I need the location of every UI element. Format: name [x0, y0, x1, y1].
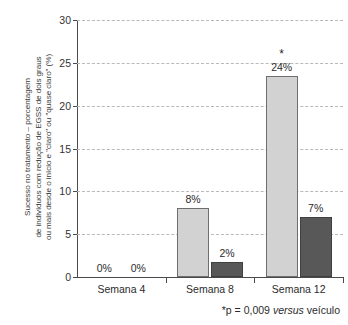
gridline: [77, 149, 343, 150]
bar-value-label: 8%: [185, 193, 200, 205]
gridline: [77, 63, 343, 64]
x-axis-end-tick: [343, 277, 344, 283]
bar-chart-figure: Sucesso no tratamento – porcentagem de i…: [0, 0, 348, 325]
bar-value-label: 0%: [131, 262, 146, 274]
y-axis-tick-mark: [73, 234, 77, 235]
x-axis-line: [77, 277, 343, 278]
bar-dark-2: [300, 217, 332, 277]
bar-value-label: 24%: [271, 61, 292, 73]
x-axis-category-label: Semana 4: [97, 283, 145, 295]
y-axis-title-line-1: Sucesso no tratamento – porcentagem: [23, 78, 33, 216]
y-axis-tick-mark: [73, 149, 77, 150]
x-axis-group-separator: [254, 277, 255, 283]
plot-area: 051015202530 0%0%8%2%24%*7%: [77, 20, 343, 277]
y-axis-title: Sucesso no tratamento – porcentagem de i…: [17, 14, 61, 280]
y-axis-tick-label: 30: [59, 14, 71, 26]
y-axis-tick-mark: [73, 277, 77, 278]
bar-light-1: [177, 208, 209, 277]
y-axis-tick-label: 25: [59, 57, 71, 69]
y-axis-title-line-3: ou mais desde o início e "claro" ou "qua…: [44, 54, 54, 240]
bar-dark-1: [211, 262, 243, 277]
x-axis-category-label: Semana 12: [272, 283, 326, 295]
footnote: *p = 0,009 versus veículo: [222, 304, 340, 316]
y-axis-tick-label: 5: [65, 228, 71, 240]
bar-value-label: 2%: [219, 247, 234, 259]
footnote-suffix: veículo: [304, 304, 340, 316]
gridline: [77, 20, 343, 21]
y-axis-tick-mark: [73, 191, 77, 192]
bar-value-label: 0%: [97, 262, 112, 274]
footnote-prefix: *p = 0,009: [222, 304, 273, 316]
y-axis-tick-mark: [73, 20, 77, 21]
x-axis-category-label: Semana 8: [186, 283, 234, 295]
footnote-emphasis: versus: [273, 304, 304, 316]
y-axis-tick-mark: [73, 106, 77, 107]
gridline: [77, 191, 343, 192]
y-axis-tick-label: 15: [59, 143, 71, 155]
y-axis-tick-label: 10: [59, 185, 71, 197]
x-axis-group-separator: [166, 277, 167, 283]
y-axis-tick-label: 0: [65, 271, 71, 283]
bar-light-2: [266, 76, 298, 277]
y-axis-title-line-2: de indivíduos com redução de EGSS de doi…: [34, 56, 44, 237]
y-axis-tick-label: 20: [59, 100, 71, 112]
y-axis-tick-mark: [73, 63, 77, 64]
bar-value-label: 7%: [308, 202, 323, 214]
significance-asterisk: *: [279, 50, 284, 58]
gridline: [77, 106, 343, 107]
